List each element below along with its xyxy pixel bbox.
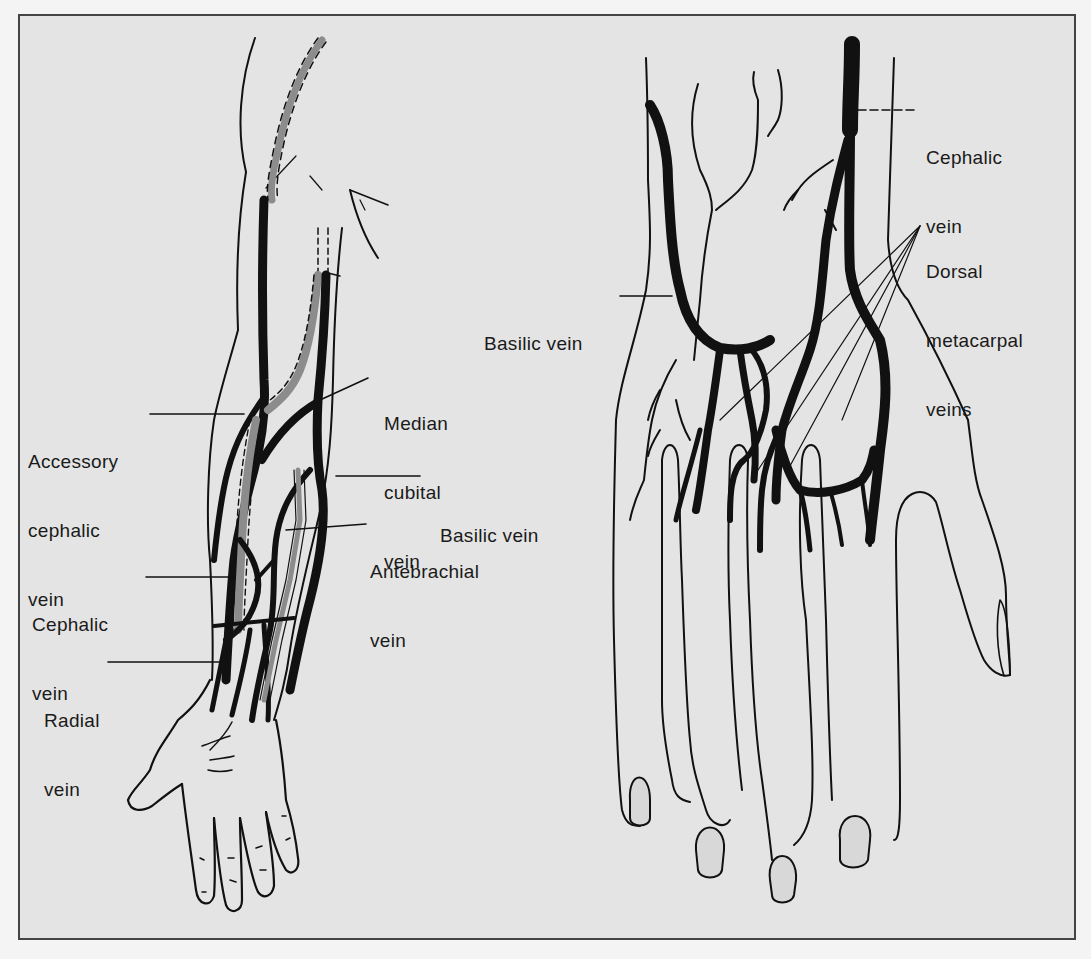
label-radial-vein: Radial vein (44, 663, 100, 824)
label-antebrachial-vein: Antebrachial vein (370, 514, 479, 675)
forearm-drawing (128, 38, 388, 911)
label-dorsal-metacarpal-veins: Dorsal metacarpal veins (926, 214, 1023, 444)
label-basilic-vein-hand: Basilic vein (484, 286, 583, 378)
